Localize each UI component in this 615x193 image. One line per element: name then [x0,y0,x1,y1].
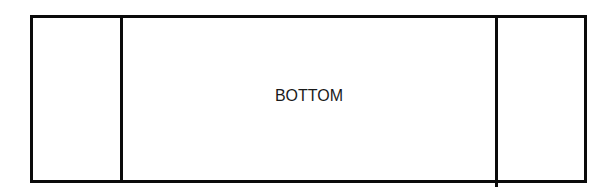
right-panel [498,18,584,180]
center-panel: BOTTOM [123,18,495,180]
center-panel-label: BOTTOM [123,87,495,105]
left-panel [33,18,120,180]
left-divider [120,15,123,183]
right-divider [495,15,498,187]
